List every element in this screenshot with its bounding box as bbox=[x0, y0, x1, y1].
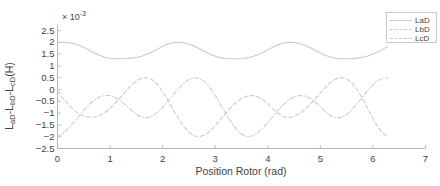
y-tick-label: 0.5 bbox=[41, 73, 54, 83]
x-tick-label: 0 bbox=[55, 154, 60, 164]
legend-label-lbd: LbD bbox=[415, 25, 430, 34]
y-axis-title-s3: cD bbox=[8, 77, 17, 86]
y-axis-title-wrapper: LaD-LbD-LcD(H) bbox=[2, 89, 16, 103]
y-axis-title-s2: bD bbox=[8, 95, 17, 105]
chart-legend: LaDLbDLcD bbox=[386, 12, 437, 43]
x-tick-label: 4 bbox=[265, 154, 270, 164]
legend-label-lad: LaD bbox=[415, 16, 430, 25]
y-axis-title: LaD-LbD-LcD(H) bbox=[3, 62, 15, 129]
legend-item-lad[interactable]: LaD bbox=[387, 16, 436, 25]
axes-lines bbox=[58, 25, 426, 149]
y-axis-exponent: × 10-3 bbox=[62, 10, 86, 22]
y-axis-exponent-base: × 10 bbox=[62, 12, 80, 22]
legend-swatch-lad bbox=[390, 20, 412, 21]
data-series bbox=[58, 42, 388, 136]
y-axis-title-p2: L bbox=[3, 105, 15, 111]
series-line-lad bbox=[58, 42, 388, 59]
y-tick-label: −2.5 bbox=[36, 144, 55, 154]
x-tick-label: 2 bbox=[160, 154, 165, 164]
legend-swatch-lcd bbox=[390, 38, 412, 39]
figure-container: × 10-3 2.521.510.50−0.5−1−1.5−2−2.5 0123… bbox=[0, 0, 440, 186]
y-tick-label: −0.5 bbox=[36, 97, 55, 107]
x-tick-label: 3 bbox=[213, 154, 218, 164]
series-line-lbd bbox=[58, 78, 388, 137]
x-axis-title: Position Rotor (rad) bbox=[195, 166, 286, 177]
y-axis-exponent-power: -3 bbox=[80, 10, 86, 17]
series-line-lcd bbox=[58, 78, 388, 137]
y-tick-label: 1.5 bbox=[41, 49, 54, 59]
legend-swatch-lbd bbox=[390, 29, 412, 30]
y-tick-label: −2 bbox=[44, 132, 55, 142]
x-tick-label: 6 bbox=[370, 154, 375, 164]
x-tick-label: 7 bbox=[423, 154, 428, 164]
y-tick-label: 1 bbox=[49, 61, 54, 71]
legend-item-lbd[interactable]: LbD bbox=[387, 25, 436, 34]
y-axis-title-p1: L bbox=[3, 124, 15, 130]
legend-item-lcd[interactable]: LcD bbox=[387, 34, 436, 43]
y-axis-title-p3: L bbox=[3, 86, 15, 92]
y-tick-label: −1 bbox=[44, 108, 55, 118]
y-tick-label: 2 bbox=[49, 38, 54, 48]
y-tick-label: 0 bbox=[49, 85, 54, 95]
y-tick-label: 2.5 bbox=[41, 26, 54, 36]
y-tick-label: −1.5 bbox=[36, 120, 55, 130]
y-axis-title-unit: (H) bbox=[3, 62, 15, 77]
x-tick-label: 5 bbox=[318, 154, 323, 164]
x-tick-label: 1 bbox=[107, 154, 112, 164]
y-axis-title-s1: aD bbox=[8, 114, 17, 124]
tick-marks bbox=[58, 31, 426, 149]
legend-label-lcd: LcD bbox=[415, 34, 429, 43]
